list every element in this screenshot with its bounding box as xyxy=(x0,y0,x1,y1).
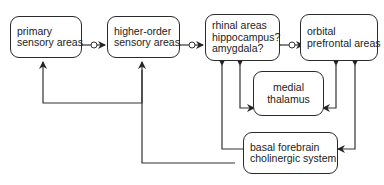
node-label: orbital xyxy=(307,26,377,38)
node-medial-thalamus: medial thalamus xyxy=(253,71,324,116)
node-label: prefrontal areas xyxy=(307,38,377,50)
node-rhinal-areas: rhinal areas hippocampus? amygdala? xyxy=(205,14,280,61)
node-label: sensory areas xyxy=(114,37,179,49)
node-label: medial xyxy=(273,82,304,94)
node-label: cholinergic system xyxy=(250,153,337,165)
node-label: amygdala? xyxy=(212,43,279,55)
node-primary-sensory-areas: primary sensory areas xyxy=(10,16,82,58)
node-label: sensory areas xyxy=(17,37,81,49)
node-orbital-prefrontal-areas: orbital prefrontal areas xyxy=(300,14,378,61)
node-label: thalamus xyxy=(267,94,310,106)
node-higher-order-sensory-areas: higher-order sensory areas xyxy=(107,16,180,58)
node-basal-forebrain-cholinergic-system: basal forebrain cholinergic system xyxy=(243,132,338,174)
